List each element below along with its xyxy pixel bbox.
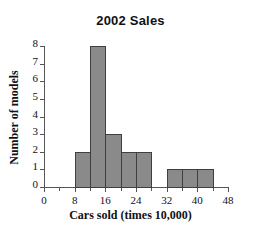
x-tick-label: 8 bbox=[72, 195, 78, 206]
bar bbox=[167, 169, 183, 188]
y-axis-title-text: Number of models bbox=[7, 70, 22, 164]
x-axis-title: Cars sold (times 10,000) bbox=[0, 208, 261, 223]
y-tick-mark bbox=[40, 169, 44, 170]
chart-title: 2002 Sales bbox=[0, 13, 261, 28]
y-tick-label: 7 bbox=[33, 56, 39, 67]
bar bbox=[182, 169, 198, 188]
y-tick-label: 1 bbox=[33, 161, 39, 172]
y-tick-label: 8 bbox=[33, 38, 39, 49]
bar bbox=[197, 169, 213, 188]
bar bbox=[121, 152, 137, 188]
x-tick-label: 48 bbox=[223, 195, 234, 206]
x-tick-label: 40 bbox=[192, 195, 203, 206]
plot-area: 012345678 081624324048 bbox=[44, 46, 228, 187]
y-tick-label: 3 bbox=[33, 126, 39, 137]
y-tick-label: 2 bbox=[33, 144, 39, 155]
x-tick-minor-4 bbox=[59, 187, 60, 191]
y-tick-mark bbox=[40, 46, 44, 47]
y-tick-mark bbox=[40, 152, 44, 153]
bar bbox=[136, 152, 152, 188]
y-tick-label: 6 bbox=[33, 73, 39, 84]
bar bbox=[75, 152, 91, 188]
x-tick-48 bbox=[228, 187, 229, 192]
x-tick-label: 24 bbox=[131, 195, 142, 206]
x-tick-label: 16 bbox=[100, 195, 111, 206]
y-tick-mark bbox=[40, 99, 44, 100]
y-tick-mark bbox=[40, 117, 44, 118]
bar bbox=[90, 46, 106, 188]
y-tick-mark bbox=[40, 64, 44, 65]
x-tick-label: 0 bbox=[41, 195, 47, 206]
y-axis-title: Number of models bbox=[6, 55, 22, 180]
y-axis-line bbox=[44, 46, 45, 188]
y-tick-mark bbox=[40, 81, 44, 82]
y-tick-label: 0 bbox=[33, 179, 39, 190]
y-tick-label: 4 bbox=[33, 109, 39, 120]
bar bbox=[105, 134, 121, 188]
x-tick-label: 32 bbox=[161, 195, 172, 206]
y-tick-mark bbox=[40, 134, 44, 135]
y-tick-label: 5 bbox=[33, 91, 39, 102]
chart-container: 2002 Sales Number of models 012345678 08… bbox=[0, 0, 261, 231]
x-tick-0 bbox=[44, 187, 45, 192]
